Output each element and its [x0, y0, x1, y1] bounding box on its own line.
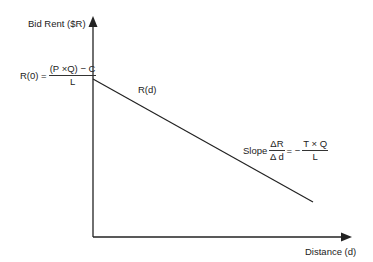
intercept-lhs: R(0) = — [20, 71, 47, 81]
slope-rhs-fraction: T × Q L — [302, 139, 328, 162]
slope-lhs-denominator: Δ d — [270, 151, 284, 162]
intercept-denominator: L — [70, 76, 75, 87]
intercept-fraction: (P ×Q) − C L — [49, 64, 97, 87]
slope-equals: = − — [287, 146, 301, 156]
diagram-canvas — [0, 0, 373, 262]
x-axis-arrow-icon — [341, 233, 352, 242]
y-axis-arrow-icon — [89, 16, 98, 27]
bid-rent-diagram: Bid Rent ($R) Distance (d) R(d) R(0) = (… — [0, 0, 373, 262]
intercept-formula: R(0) = (P ×Q) − C L — [20, 64, 96, 87]
slope-lhs-fraction: ΔR Δ d — [269, 139, 284, 162]
slope-rhs-numerator: T × Q — [302, 139, 328, 151]
slope-rhs-denominator: L — [313, 151, 318, 162]
slope-prefix: Slope — [243, 146, 267, 156]
x-axis-label: Distance (d) — [305, 247, 356, 257]
slope-formula: Slope ΔR Δ d = − T × Q L — [243, 139, 328, 162]
intercept-numerator: (P ×Q) − C — [49, 64, 97, 76]
curve-label: R(d) — [138, 85, 156, 95]
y-axis-label: Bid Rent ($R) — [28, 19, 86, 29]
slope-lhs-numerator: ΔR — [269, 139, 284, 151]
